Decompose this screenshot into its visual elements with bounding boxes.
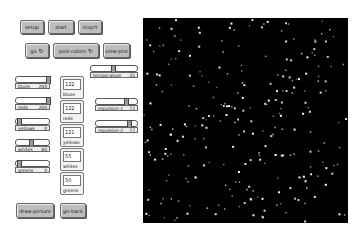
slider-value: 80 [41, 147, 47, 152]
setup-label: setup [25, 24, 39, 30]
slider-label: repulsion-172 [95, 105, 138, 111]
temperature-slider[interactable]: temperature35 [90, 65, 138, 79]
go-back-label: go-back [63, 208, 83, 214]
slider-name: repulsion-1 [98, 106, 123, 111]
slider-value: 77 [129, 128, 135, 133]
slider-track[interactable] [95, 120, 138, 127]
slider-value: 0 [44, 168, 47, 173]
slider-label: greens0 [15, 167, 50, 173]
stop-button[interactable]: stop!t [78, 20, 102, 34]
whites-monitor: 55whites [60, 148, 84, 171]
go-button[interactable]: go↻ [25, 43, 49, 58]
go-back-button[interactable]: go-back [60, 203, 86, 218]
slider-name: repulsion-2 [98, 128, 123, 133]
slider-name: blues [18, 84, 30, 89]
slider-label: reds200 [15, 104, 50, 110]
slider-track[interactable] [90, 65, 138, 72]
slider-label: yellows0 [15, 125, 50, 131]
slider-value: 200 [38, 105, 47, 110]
monitor-name: whites [63, 164, 78, 169]
slider-track[interactable] [15, 97, 50, 104]
slider-value: 200 [38, 84, 47, 89]
go-label: go [30, 48, 36, 54]
pick-colors-button[interactable]: pick-colors↻ [53, 43, 99, 58]
draw-picture-button[interactable]: draw-picture [16, 203, 54, 218]
slider-name: temperature [93, 73, 121, 78]
yellows-monitor: 121yellows [60, 124, 84, 147]
setup-button[interactable]: setup [20, 20, 44, 34]
slider-label: temperature35 [90, 72, 138, 78]
forever-icon: ↻ [39, 47, 44, 54]
slider-value: 0 [44, 126, 47, 131]
slider-label: repulsion-277 [95, 127, 138, 133]
slider-label: whites80 [15, 146, 50, 152]
whites-slider[interactable]: whites80 [15, 139, 50, 153]
monitor-value: 121 [63, 127, 81, 138]
slider-track[interactable] [15, 160, 50, 167]
slider-name: yellows [18, 126, 35, 131]
stop-label: stop!t [83, 24, 98, 30]
slider-label: blues200 [15, 83, 50, 89]
slider-value: 72 [129, 106, 135, 111]
world-view[interactable] [143, 18, 348, 223]
blues-slider[interactable]: blues200 [15, 76, 50, 90]
repulsion-1-slider[interactable]: repulsion-172 [95, 98, 138, 112]
monitor-value: 55 [63, 151, 81, 162]
monitor-value: 122 [63, 79, 81, 90]
yellows-slider[interactable]: yellows0 [15, 118, 50, 132]
monitor-name: blues [63, 92, 75, 97]
slider-value: 35 [129, 73, 135, 78]
monitor-name: yellows [63, 140, 80, 145]
slider-name: whites [18, 147, 33, 152]
pick-colors-label: pick-colors [59, 48, 86, 54]
monitor-value: 50 [63, 175, 81, 186]
particles-layer [143, 18, 348, 223]
view-plot-button[interactable]: view-plot [103, 43, 130, 58]
greens-slider[interactable]: greens0 [15, 160, 50, 174]
slider-track[interactable] [15, 76, 50, 83]
start-button[interactable]: start [48, 20, 74, 34]
slider-name: reds [18, 105, 28, 110]
repulsion-2-slider[interactable]: repulsion-277 [95, 120, 138, 134]
slider-track[interactable] [15, 118, 50, 125]
monitor-name: reds [63, 116, 73, 121]
slider-name: greens [18, 168, 33, 173]
reds-slider[interactable]: reds200 [15, 97, 50, 111]
slider-track[interactable] [95, 98, 138, 105]
start-label: start [55, 24, 67, 30]
forever-icon: ↻ [88, 47, 93, 54]
draw-picture-label: draw-picture [19, 208, 51, 214]
reds-monitor: 122reds [60, 100, 84, 123]
greens-monitor: 50greens [60, 172, 84, 195]
monitor-value: 122 [63, 103, 81, 114]
monitor-name: greens [63, 188, 78, 193]
slider-track[interactable] [15, 139, 50, 146]
view-plot-label: view-plot [105, 48, 128, 54]
blues-monitor: 122blues [60, 76, 84, 99]
